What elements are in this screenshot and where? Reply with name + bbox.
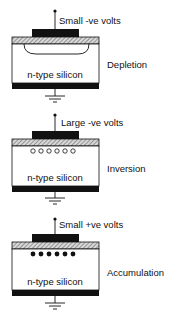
voltage-label: Small -ve volts — [59, 15, 121, 26]
back-contact — [12, 186, 99, 192]
panel-inversion: Large -ve volts n-type silicon Inversion — [12, 113, 146, 204]
state-label: Accumulation — [107, 267, 164, 278]
oxide-layer — [12, 242, 99, 249]
panel-depletion: Small -ve volts n-type silicon Depletion — [12, 9, 147, 102]
back-contact — [12, 290, 99, 296]
panel-accumulation: Small +ve volts n-type silicon Accumulat… — [12, 217, 164, 309]
mos-capacitor-diagram: Small -ve volts n-type silicon Depletion… — [0, 0, 174, 321]
metal-gate — [32, 131, 79, 139]
metal-gate — [32, 234, 79, 242]
ground-icon — [45, 198, 65, 204]
ground-icon — [45, 96, 65, 102]
back-contact — [12, 83, 99, 89]
substrate-label: n-type silicon — [27, 172, 82, 183]
oxide-layer — [12, 37, 99, 44]
substrate-label: n-type silicon — [27, 69, 82, 80]
state-label: Inversion — [107, 163, 146, 174]
ground-icon — [45, 303, 65, 309]
voltage-label: Large -ve volts — [61, 117, 124, 128]
metal-gate — [32, 29, 79, 37]
oxide-layer — [12, 139, 99, 146]
voltage-label: Small +ve volts — [59, 219, 123, 230]
state-label: Depletion — [107, 59, 147, 70]
substrate-label: n-type silicon — [27, 276, 82, 287]
